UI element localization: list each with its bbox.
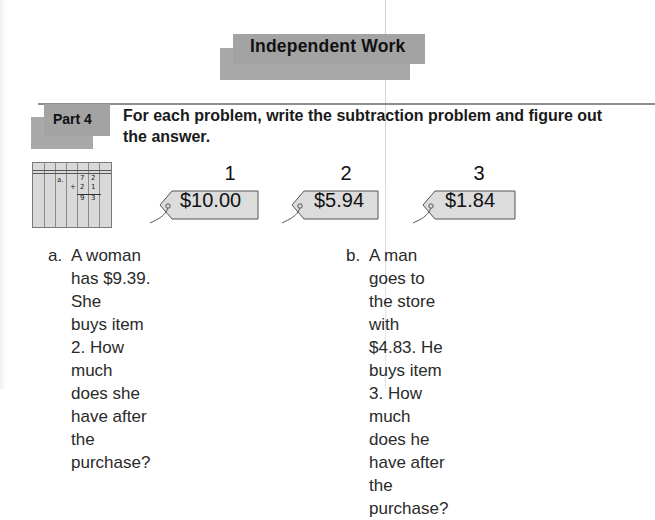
- item-number: 3: [459, 162, 499, 185]
- problem-letter: b.: [346, 244, 360, 267]
- pv-header-line: [33, 170, 111, 171]
- part-instruction: For each problem, write the subtraction …: [123, 105, 623, 147]
- part-label: Part 4: [53, 111, 92, 127]
- item-price: $5.94: [314, 189, 364, 212]
- problem-text: A woman has $9.39. She buys item 2. How …: [71, 244, 150, 474]
- pv-digit: 3: [91, 194, 95, 202]
- item-number: 2: [326, 162, 366, 185]
- problem-letter: a.: [48, 244, 62, 267]
- item-price: $1.84: [445, 189, 495, 212]
- place-value-chart-icon: a. 7 2 + 2 1 9 3: [32, 162, 112, 228]
- pv-digit: 1: [91, 183, 95, 191]
- item-price: $10.00: [180, 189, 241, 212]
- problem-text: A man goes to the store with $4.83. He b…: [369, 244, 448, 520]
- item-number: 1: [210, 162, 250, 185]
- section-title: Independent Work: [250, 36, 406, 57]
- pv-operator: +: [70, 183, 76, 191]
- pv-row-label: a.: [57, 176, 64, 184]
- pv-digit: 2: [80, 183, 84, 191]
- page-edge-shadow: [0, 0, 6, 389]
- pv-digit: 2: [91, 174, 95, 182]
- pv-digit: 7: [80, 174, 84, 182]
- pv-digit: 9: [80, 194, 84, 202]
- pv-header-line: [33, 173, 111, 174]
